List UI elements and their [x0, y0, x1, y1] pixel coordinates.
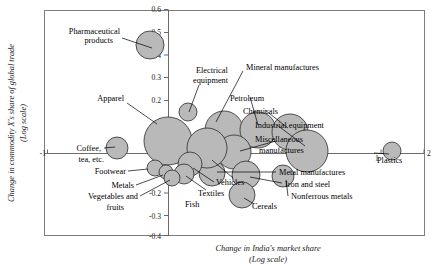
label-miscellaneous-manufactures-line1: Miscellaneous [255, 135, 303, 144]
bubble-electrical-equipment [179, 103, 197, 121]
bubble-vegetables-and-fruits [164, 170, 180, 186]
label-fish: Fish [185, 200, 200, 209]
bubble-chart-figure: 0.6 0.5 0.4 0.3 0.2 0.1 0 -0.1 -0.2 -0.3… [0, 0, 433, 265]
label-iron-and-steel: Iron and steel [285, 180, 331, 189]
label-vehicles: Vehicles [216, 178, 244, 187]
label-electrical-equipment-line2: equipment [193, 76, 229, 85]
x-tick-label--1: -1 [40, 149, 47, 158]
x-axis-title: Change in India's market share [215, 244, 321, 253]
label-nonferrous-metals: Nonferrous metals [291, 192, 353, 201]
label-coffee-tea-etc-line2: tea, etc. [78, 155, 104, 164]
y-tick-label-0.2: 0.2 [152, 96, 162, 105]
label-metal-manufactures: Metal manufactures [279, 168, 345, 177]
label-coffee-tea-etc-line1: Coffee, [77, 144, 102, 153]
label-plastics: Plastics [377, 156, 402, 165]
label-industrial-equipment: Industrial equipment [255, 121, 325, 130]
y-tick-label-0.6: 0.6 [152, 5, 162, 14]
label-apparel: Apparel [97, 94, 124, 103]
y-tick-label--0.4: -0.4 [149, 232, 161, 241]
label-vegetables-and-fruits-line2: fruits [106, 203, 124, 212]
y-axis-subtitle: (Log scale) [19, 104, 28, 142]
label-petroleum: Petroleum [230, 94, 265, 103]
label-pharmaceutical-products-line2: products [84, 36, 113, 45]
label-textiles: Textiles [198, 189, 224, 198]
bubble-coffee-tea-etc [106, 137, 128, 159]
label-chemicals: Chemicals [243, 107, 278, 116]
label-footwear: Footwear [95, 167, 127, 176]
x-tick-label-2: 2 [427, 149, 431, 158]
label-miscellaneous-manufactures-line2: manufactures [259, 146, 304, 155]
y-tick-label--0.3: -0.3 [149, 212, 161, 221]
x-axis-subtitle: (Log scale) [249, 255, 287, 264]
label-pharmaceutical-products-line1: Pharmaceutical [69, 27, 121, 36]
bubble-pharmaceutical-products [136, 31, 164, 59]
label-mineral-manufactures: Mineral manufactures [246, 63, 319, 72]
y-axis-title: Change in commodity X's share of global … [7, 44, 16, 202]
label-vegetables-and-fruits-line1: Vegetables and [88, 192, 139, 201]
label-metals: Metals [111, 181, 134, 190]
label-electrical-equipment-line1: Electrical [196, 66, 228, 75]
y-tick-label-0.3: 0.3 [152, 73, 162, 82]
label-cereals: Cereals [252, 202, 277, 211]
